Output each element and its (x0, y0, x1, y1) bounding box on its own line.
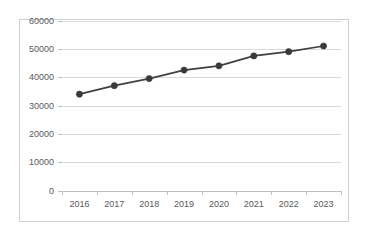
x-axis-tick-label: 2017 (104, 199, 124, 209)
data-point-marker (251, 53, 257, 59)
y-axis-tick-label: 30000 (29, 101, 54, 111)
x-axis-tick-label: 2019 (174, 199, 194, 209)
x-axis (62, 191, 342, 195)
y-axis-tick-label: 20000 (29, 129, 54, 139)
data-point-marker (76, 91, 82, 97)
y-axis-tick-label: 0 (49, 186, 54, 196)
x-axis-tick-labels: 20162017201820192020202120222023 (69, 199, 333, 209)
y-axis-tick-labels: 0100002000030000400005000060000 (29, 16, 62, 196)
x-axis-tick-label: 2022 (279, 199, 299, 209)
x-axis-tick-label: 2021 (244, 199, 264, 209)
x-axis-tick-label: 2020 (209, 199, 229, 209)
y-axis-tick-label: 40000 (29, 72, 54, 82)
data-point-marker (286, 49, 292, 55)
data-point-marker (146, 75, 152, 81)
line-chart: 0100002000030000400005000060000 20162017… (0, 0, 367, 240)
gridlines (62, 22, 341, 163)
chart-canvas: 0100002000030000400005000060000 20162017… (0, 0, 367, 240)
x-axis-tick-label: 2018 (139, 199, 159, 209)
data-point-marker (320, 43, 326, 49)
x-axis-tick-label: 2016 (69, 199, 89, 209)
x-axis-tick-label: 2023 (314, 199, 334, 209)
data-point-marker (111, 83, 117, 89)
y-axis-tick-label: 50000 (29, 44, 54, 54)
data-point-marker (216, 63, 222, 69)
data-point-marker (181, 67, 187, 73)
y-axis-tick-label: 10000 (29, 157, 54, 167)
series-markers (76, 43, 326, 97)
y-axis-tick-label: 60000 (29, 16, 54, 26)
